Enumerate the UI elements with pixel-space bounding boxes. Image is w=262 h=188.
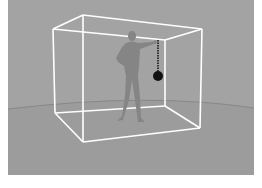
scene-illustration: [0, 0, 262, 188]
pendulum: [153, 40, 163, 81]
floor: [8, 100, 254, 175]
ball: [153, 71, 163, 81]
